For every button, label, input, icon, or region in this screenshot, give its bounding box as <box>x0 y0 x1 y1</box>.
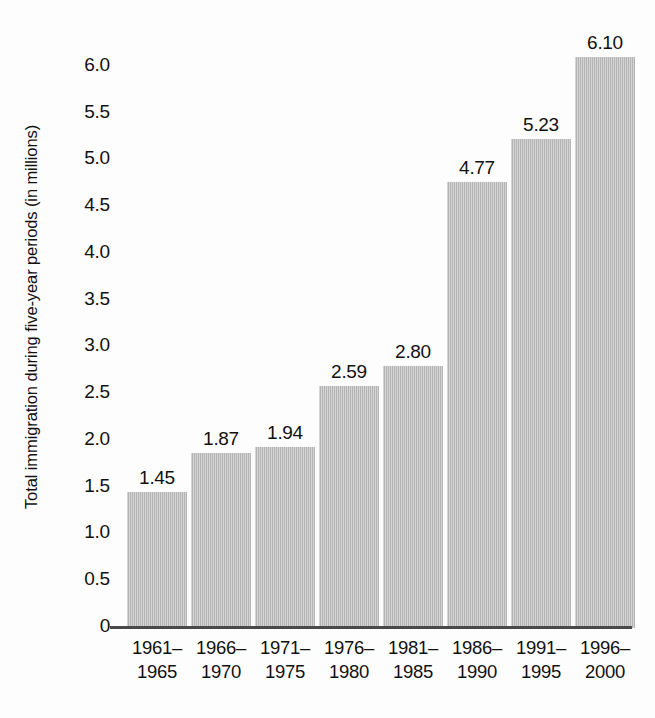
bar[interactable] <box>255 447 315 628</box>
y-tick-label: 5.5 <box>54 102 110 121</box>
bar[interactable] <box>511 139 571 628</box>
x-tick-label-line: 1980 <box>313 660 385 684</box>
x-axis-tick-labels: 1961–19651966–19701971–19751976–19801981… <box>124 636 634 706</box>
x-tick-label: 1971–1975 <box>249 636 321 684</box>
y-tick-label: 1.0 <box>54 522 110 541</box>
x-tick-label-line: 1975 <box>249 660 321 684</box>
y-tick-label: 6.0 <box>54 55 110 74</box>
x-tick-label-line: 1971– <box>249 636 321 660</box>
bar[interactable] <box>383 366 443 628</box>
bar-slot: 2.80 <box>383 20 443 628</box>
y-tick-label: 0.5 <box>54 569 110 588</box>
x-tick-label-line: 1986– <box>441 636 513 660</box>
bar[interactable] <box>575 57 635 628</box>
bar-chart-figure: Total immigration during five-year perio… <box>0 0 655 718</box>
y-tick-label: 5.0 <box>54 148 110 167</box>
y-tick-label: 3.5 <box>54 289 110 308</box>
y-axis-title: Total immigration during five-year perio… <box>14 2 48 632</box>
bar-slot: 1.45 <box>127 20 187 628</box>
x-axis-line <box>110 626 632 629</box>
y-tick-label: 0 <box>54 616 110 635</box>
bar-value-label: 6.10 <box>562 33 648 52</box>
bar-value-label: 2.59 <box>306 362 392 381</box>
y-axis-tick-labels: 00.51.01.52.02.53.03.54.04.55.05.56.0 <box>54 0 110 718</box>
x-tick-label-line: 1990 <box>441 660 513 684</box>
x-tick-label-line: 1991– <box>505 636 577 660</box>
x-tick-label-line: 1985 <box>377 660 449 684</box>
bar-value-label: 4.77 <box>434 158 520 177</box>
bar-slot: 4.77 <box>447 20 507 628</box>
bar-value-label: 1.94 <box>242 423 328 442</box>
x-tick-label: 1996–2000 <box>569 636 641 684</box>
x-tick-label-line: 1981– <box>377 636 449 660</box>
bar-slot: 1.87 <box>191 20 251 628</box>
bar-value-label: 1.45 <box>114 468 200 487</box>
y-tick-label: 1.5 <box>54 476 110 495</box>
x-tick-label-line: 1961– <box>121 636 193 660</box>
x-tick-label: 1961–1965 <box>121 636 193 684</box>
bar-value-label: 2.80 <box>370 342 456 361</box>
x-tick-label-line: 1965 <box>121 660 193 684</box>
x-tick-label: 1976–1980 <box>313 636 385 684</box>
bar-slot: 6.10 <box>575 20 635 628</box>
y-tick-label: 2.0 <box>54 429 110 448</box>
bar-value-label: 5.23 <box>498 115 584 134</box>
x-tick-label-line: 1996– <box>569 636 641 660</box>
bar[interactable] <box>319 386 379 628</box>
bar-slot: 5.23 <box>511 20 571 628</box>
bar[interactable] <box>127 492 187 628</box>
bar-slot: 2.59 <box>319 20 379 628</box>
x-tick-label-line: 1976– <box>313 636 385 660</box>
x-tick-label: 1991–1995 <box>505 636 577 684</box>
bar[interactable] <box>447 182 507 628</box>
y-tick-label: 4.0 <box>54 242 110 261</box>
x-tick-label: 1986–1990 <box>441 636 513 684</box>
bar-slot: 1.94 <box>255 20 315 628</box>
y-tick-label: 3.0 <box>54 335 110 354</box>
x-tick-label-line: 1966– <box>185 636 257 660</box>
x-tick-label-line: 2000 <box>569 660 641 684</box>
x-tick-label: 1981–1985 <box>377 636 449 684</box>
x-tick-label: 1966–1970 <box>185 636 257 684</box>
plot-area: 1.451.871.942.592.804.775.236.10 <box>124 20 634 628</box>
x-tick-label-line: 1970 <box>185 660 257 684</box>
bar[interactable] <box>191 453 251 628</box>
y-tick-label: 2.5 <box>54 382 110 401</box>
x-tick-label-line: 1995 <box>505 660 577 684</box>
y-tick-label: 4.5 <box>54 195 110 214</box>
